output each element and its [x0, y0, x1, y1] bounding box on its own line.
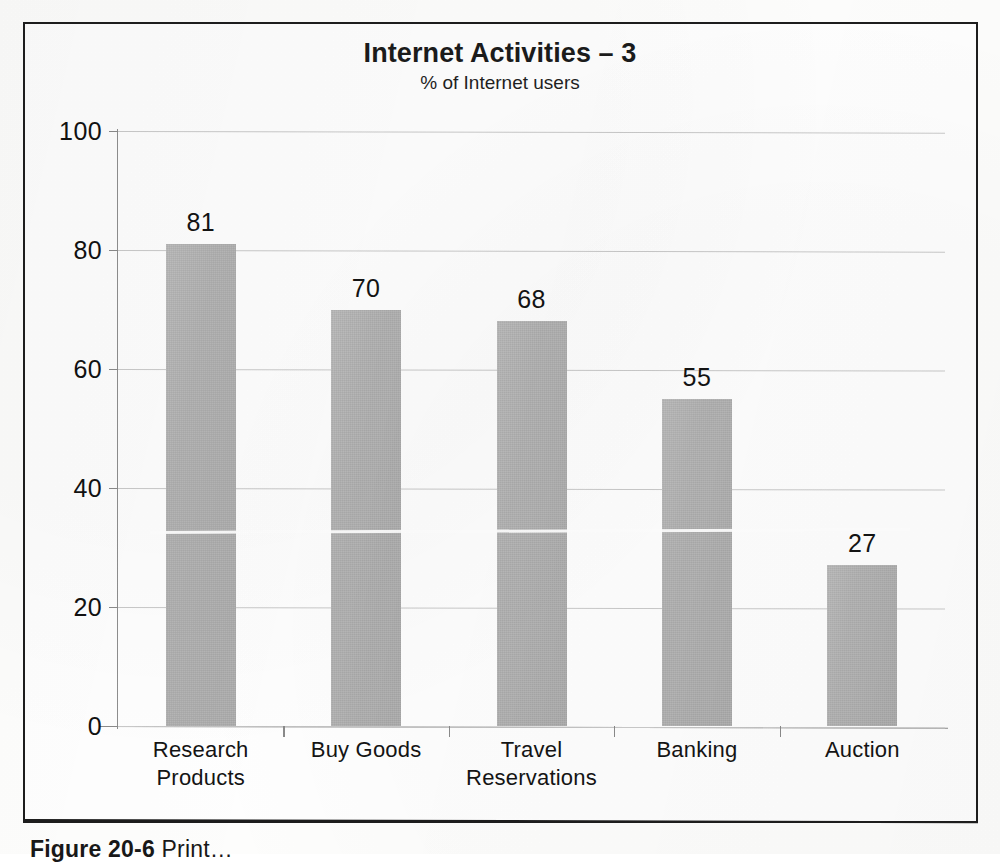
y-axis-tick [109, 488, 118, 489]
bar-value-label: 68 [517, 285, 546, 314]
y-axis-tick [109, 131, 118, 132]
x-axis-tick [449, 726, 450, 737]
plot-area: 0204060801008170685527 [118, 131, 945, 726]
x-axis-category-label: Travel Reservations [466, 736, 597, 791]
x-axis-category-label: Auction [825, 736, 900, 764]
gridline [118, 131, 945, 134]
y-axis-tick [109, 607, 118, 608]
figure-caption: Figure 20-6 Print… [30, 836, 233, 863]
y-axis-label: 20 [73, 593, 102, 622]
x-axis-tick [780, 726, 781, 737]
bar-value-label: 27 [848, 529, 877, 558]
x-axis-tick [283, 726, 284, 737]
y-axis-tick [109, 369, 118, 370]
bar[interactable] [331, 310, 401, 727]
bar-value-label: 55 [683, 363, 712, 392]
y-axis-label: 80 [73, 236, 102, 265]
y-axis-label: 100 [59, 117, 102, 146]
bar-value-label: 70 [352, 274, 381, 303]
y-axis-label: 60 [73, 355, 102, 384]
bar[interactable] [827, 565, 897, 726]
bar[interactable] [166, 244, 236, 726]
gridline [118, 250, 945, 253]
figure-caption-text: Print… [155, 836, 233, 862]
y-axis-label: 40 [73, 474, 102, 503]
bar[interactable] [662, 399, 732, 726]
y-axis-label: 0 [88, 712, 102, 741]
x-axis-category-label: Banking [656, 736, 737, 764]
y-axis-tick [109, 250, 118, 251]
x-axis-category-label: Buy Goods [311, 736, 422, 764]
x-axis-category-label: Research Products [153, 736, 249, 791]
y-axis-tick [109, 726, 118, 727]
bar-value-label: 81 [186, 208, 215, 237]
x-axis-tick [614, 726, 615, 737]
bar[interactable] [497, 321, 567, 726]
figure-caption-label: Figure 20-6 [30, 836, 155, 862]
